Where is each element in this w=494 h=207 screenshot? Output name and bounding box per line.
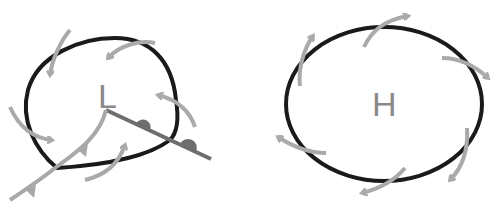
pressure-systems-diagram: L H bbox=[0, 0, 494, 207]
cold-front bbox=[10, 110, 106, 200]
high-label: H bbox=[372, 85, 397, 123]
high-pressure-system: H bbox=[278, 16, 488, 193]
low-pressure-system: L bbox=[10, 30, 211, 200]
